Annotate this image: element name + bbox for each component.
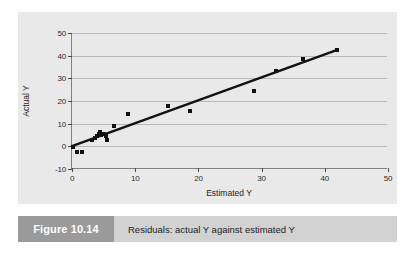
- figure-number-label: Figure 10.14: [33, 223, 98, 235]
- data-point: [188, 109, 192, 113]
- x-tick-label: 40: [321, 174, 330, 183]
- data-point: [274, 69, 278, 73]
- y-tick-label: 30: [58, 74, 67, 83]
- x-tick-mark: [72, 168, 73, 172]
- x-tick-label: 0: [70, 174, 74, 183]
- data-point: [105, 138, 109, 142]
- y-tick-label: -10: [55, 165, 66, 174]
- data-point: [71, 145, 75, 149]
- data-point: [80, 150, 84, 154]
- x-tick-mark: [262, 168, 263, 172]
- data-point: [112, 124, 116, 128]
- y-tick-label: 20: [58, 97, 67, 106]
- chart-panel: Actual Y -1001020304050 01020304050 Esti…: [18, 12, 397, 204]
- x-tick-mark: [198, 168, 199, 172]
- y-tick-label: 40: [58, 51, 67, 60]
- figure-caption-bar: Figure 10.14 Residuals: actual Y against…: [18, 216, 397, 242]
- figure-card: Actual Y -1001020304050 01020304050 Esti…: [0, 0, 415, 257]
- data-point: [252, 89, 256, 93]
- y-axis-title: Actual Y: [21, 85, 31, 117]
- data-point: [301, 57, 305, 61]
- x-tick-label: 10: [131, 174, 140, 183]
- trend-line: [72, 33, 387, 168]
- x-tick-mark: [325, 168, 326, 172]
- x-tick-label: 20: [194, 174, 203, 183]
- x-tick-label: 30: [257, 174, 266, 183]
- figure-caption-text: Residuals: actual Y against estimated Y: [128, 216, 295, 242]
- plot-area: -1001020304050 01020304050: [71, 33, 387, 169]
- x-axis-title: Estimated Y: [71, 188, 387, 198]
- y-tick-label: 50: [58, 29, 67, 38]
- y-tick-label: 0: [62, 142, 66, 151]
- data-point: [75, 150, 79, 154]
- data-point: [166, 104, 170, 108]
- data-point: [126, 112, 130, 116]
- x-tick-label: 50: [384, 174, 393, 183]
- x-tick-mark: [135, 168, 136, 172]
- data-point: [335, 48, 339, 52]
- y-tick-label: 10: [58, 119, 67, 128]
- figure-number-box: Figure 10.14: [18, 216, 114, 242]
- x-tick-mark: [388, 168, 389, 172]
